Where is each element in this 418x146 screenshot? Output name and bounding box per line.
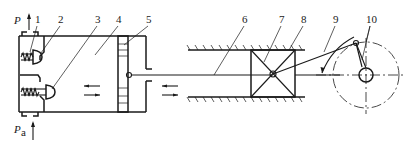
callout-7: 7 (264, 13, 285, 62)
connecting-rod (273, 43, 356, 74)
svg-text:8: 8 (301, 13, 307, 25)
svg-text:P: P (13, 123, 21, 135)
svg-text:7: 7 (279, 13, 285, 25)
compressor-diagram: P P a (0, 0, 418, 146)
crankshaft (316, 38, 404, 114)
piston (118, 36, 132, 112)
svg-text:6: 6 (242, 13, 248, 25)
suction-valve (21, 85, 55, 99)
svg-text:2: 2 (58, 13, 64, 25)
svg-text:1: 1 (35, 13, 41, 25)
discharge-pressure-label: P (13, 13, 31, 30)
crosshead-guide (187, 45, 305, 102)
callout-9: 9 (324, 13, 339, 52)
svg-text:3: 3 (95, 13, 101, 25)
svg-text:5: 5 (146, 13, 152, 25)
svg-text:a: a (21, 126, 26, 138)
rotation-arrow (321, 37, 355, 73)
callout-8: 8 (289, 13, 307, 50)
callout-1: 1 (30, 13, 41, 52)
cylinder (19, 32, 152, 116)
svg-text:P: P (13, 14, 21, 26)
rod-motion-arrows (162, 85, 178, 97)
svg-text:9: 9 (333, 13, 339, 25)
callouts: 1 2 3 4 5 6 7 8 9 10 (30, 13, 378, 89)
discharge-valve (21, 50, 42, 64)
callout-6: 6 (214, 13, 248, 75)
cylinder-motion-arrows (84, 85, 100, 97)
svg-text:10: 10 (366, 13, 378, 25)
callout-10: 10 (362, 13, 378, 60)
suction-pressure-label: P a (13, 121, 35, 140)
svg-text:4: 4 (116, 13, 122, 25)
